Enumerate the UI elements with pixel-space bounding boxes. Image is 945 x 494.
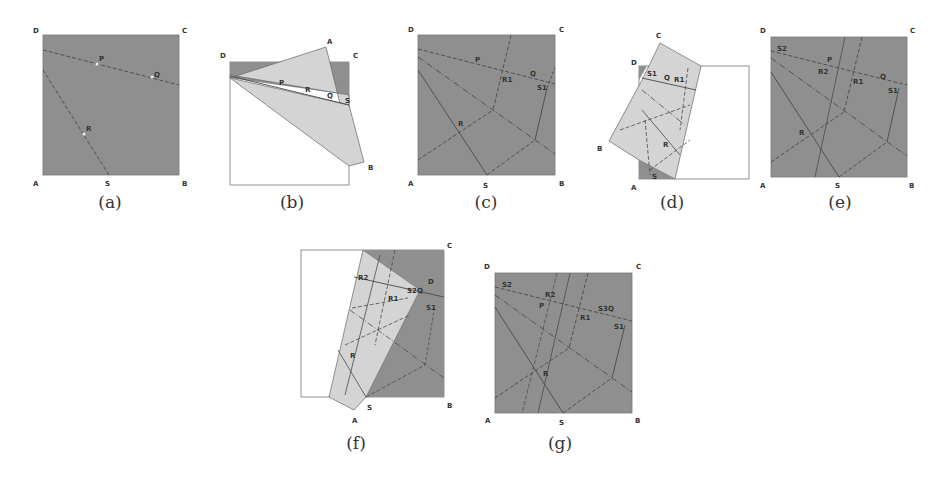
panel-d: C D S1 Q R1 B R A S (d): [590, 20, 760, 220]
label-p: P: [827, 56, 832, 64]
folding-diagram-e: D C S2 P R2 R1 Q S1 R A S B: [755, 20, 925, 220]
label-s1: S1: [647, 70, 657, 78]
label-s: S: [559, 419, 564, 427]
label-s2q: S2Q: [407, 287, 423, 295]
label-q: Q: [664, 74, 670, 82]
label-a: A: [33, 180, 39, 188]
label-p: P: [539, 302, 544, 310]
panel-c: D C A B P Q R1 S1 R S (c): [400, 20, 575, 220]
label-b: B: [182, 180, 187, 188]
label-b: B: [597, 145, 602, 153]
caption-b: (b): [262, 192, 322, 212]
label-q: Q: [530, 70, 536, 78]
folding-diagram-d: C D S1 Q R1 B R A S: [590, 20, 760, 220]
label-c: C: [559, 26, 564, 34]
panel-f: C R2 D S2Q R1 S1 R S A B (f): [290, 235, 465, 485]
label-d: D: [408, 26, 414, 34]
label-r: R: [663, 141, 669, 149]
label-d: D: [220, 52, 226, 60]
label-b: B: [559, 180, 564, 188]
label-c: C: [656, 32, 661, 40]
label-p: P: [279, 79, 284, 87]
caption-d: (d): [642, 192, 702, 212]
label-b: B: [368, 164, 373, 172]
label-s1: S1: [614, 323, 624, 331]
label-d: D: [760, 27, 766, 35]
label-d: D: [428, 278, 434, 286]
label-s1: S1: [537, 84, 547, 92]
label-a: A: [485, 417, 491, 425]
label-c: C: [636, 263, 641, 271]
label-s1: S1: [888, 87, 898, 95]
label-r1: R1: [853, 78, 863, 86]
label-r2: R2: [818, 68, 828, 76]
label-a: A: [408, 180, 414, 188]
caption-f: (f): [326, 433, 386, 453]
folding-diagram-a: D C A B P Q R S: [30, 20, 190, 220]
label-s: S: [835, 182, 840, 190]
label-a: A: [352, 417, 358, 425]
label-d: D: [631, 59, 637, 67]
label-r2: R2: [358, 274, 368, 282]
label-r: R: [86, 125, 92, 133]
label-r2: R2: [545, 291, 555, 299]
label-r1: R1: [502, 76, 512, 84]
label-r: R: [350, 352, 356, 360]
label-s2: S2: [777, 45, 787, 53]
label-c: C: [182, 27, 187, 35]
label-p: P: [99, 55, 104, 63]
label-b: B: [909, 182, 914, 190]
label-s: S: [652, 173, 657, 181]
label-a: A: [631, 184, 637, 192]
label-r: R: [305, 86, 311, 94]
label-c: C: [447, 242, 452, 250]
label-c: C: [353, 52, 358, 60]
label-a: A: [760, 182, 766, 190]
label-q: Q: [880, 73, 886, 81]
label-d: D: [33, 27, 39, 35]
panel-e: D C S2 P R2 R1 Q S1 R A S B (e): [755, 20, 925, 220]
label-r1: R1: [388, 295, 398, 303]
label-r1: R1: [580, 314, 590, 322]
folding-diagram-c: D C A B P Q R1 S1 R S: [400, 20, 575, 220]
label-s: S: [483, 182, 488, 190]
label-r1: R1: [674, 76, 684, 84]
label-b: B: [447, 402, 452, 410]
label-b: B: [635, 417, 640, 425]
panel-a: D C A B P Q R S (a): [30, 20, 190, 220]
label-s2: S2: [502, 281, 512, 289]
label-q: Q: [327, 92, 333, 100]
label-q: Q: [154, 71, 160, 79]
label-s3q: S3Q: [598, 305, 614, 313]
label-r: R: [458, 120, 464, 128]
label-s: S: [105, 180, 110, 188]
label-p: P: [475, 56, 480, 64]
folding-diagram-b: D C A B P R Q S: [210, 20, 380, 220]
label-r: R: [799, 129, 805, 137]
caption-e: (e): [810, 192, 870, 212]
label-s: S: [367, 404, 372, 412]
caption-c: (c): [456, 192, 516, 212]
caption-a: (a): [80, 192, 140, 212]
label-d: D: [484, 263, 490, 271]
label-s: S: [345, 97, 350, 105]
label-s1: S1: [426, 304, 436, 312]
panel-g: D C S2 R2 P R1 S3Q S1 R A S B (g): [470, 235, 650, 485]
panel-b: D C A B P R Q S (b): [210, 20, 380, 220]
label-a: A: [327, 38, 333, 46]
caption-g: (g): [530, 433, 590, 453]
label-c: C: [910, 27, 915, 35]
label-r: R: [543, 370, 549, 378]
